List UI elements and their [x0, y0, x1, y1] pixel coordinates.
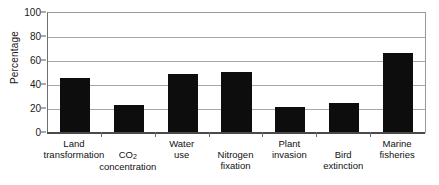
- plot-inner: [48, 13, 425, 133]
- y-tick-label: 60: [7, 55, 41, 66]
- category-label-line1: Plant: [245, 138, 333, 149]
- x-tick-mark: [262, 132, 263, 137]
- y-tick-label: 40: [7, 79, 41, 90]
- category-label-line1: Land: [30, 138, 118, 149]
- subscript: 2: [133, 153, 137, 160]
- y-axis-ticks: 100806040200: [0, 0, 41, 145]
- x-tick-mark: [209, 132, 210, 137]
- bar: [168, 74, 198, 133]
- bar-chart-figure: Percentage 100806040200 Landtransformati…: [0, 0, 439, 185]
- bar: [383, 53, 413, 133]
- category-label-line2: extinction: [299, 160, 387, 171]
- category-label-line1: Water: [137, 138, 225, 149]
- y-tick-mark: [41, 12, 46, 13]
- bar: [114, 105, 144, 133]
- plot-area: [47, 12, 426, 133]
- category-label-line2: fisheries: [353, 149, 439, 160]
- x-axis-line: [47, 132, 425, 134]
- y-tick-mark: [41, 132, 46, 133]
- x-tick-mark: [316, 132, 317, 137]
- y-tick-label: 100: [7, 7, 41, 18]
- category-label-line2: concentration: [84, 161, 172, 172]
- y-tick-label: 80: [7, 31, 41, 42]
- y-tick-label: 0: [7, 127, 41, 138]
- y-tick-label: 20: [7, 103, 41, 114]
- bar: [275, 107, 305, 133]
- y-tick-mark: [41, 60, 46, 61]
- category-label-line2: fixation: [191, 160, 279, 171]
- x-tick-mark: [370, 132, 371, 137]
- gridline: [48, 37, 425, 38]
- bar: [329, 103, 359, 133]
- x-tick-mark: [101, 132, 102, 137]
- x-axis-category-label: Marinefisheries: [353, 138, 439, 160]
- y-tick-mark: [41, 36, 46, 37]
- gridline: [48, 61, 425, 62]
- category-label-line1: Marine: [353, 138, 439, 149]
- y-tick-mark: [41, 84, 46, 85]
- x-tick-mark: [155, 132, 156, 137]
- y-tick-mark: [41, 108, 46, 109]
- bar: [221, 72, 251, 133]
- bar: [60, 78, 90, 133]
